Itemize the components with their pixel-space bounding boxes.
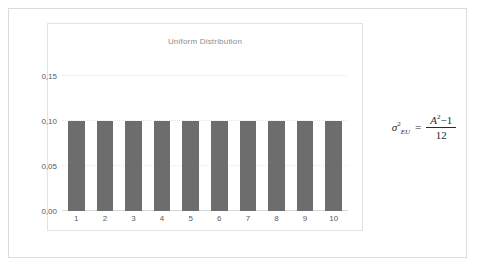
bar-slot: 1 bbox=[62, 53, 91, 211]
x-axis-tick-label: 2 bbox=[91, 214, 120, 223]
bar-slot: 8 bbox=[262, 53, 291, 211]
bar bbox=[325, 121, 342, 211]
y-axis-tick-label: 0,10 bbox=[41, 116, 57, 125]
bar-slot: 4 bbox=[148, 53, 177, 211]
bar-slot: 2 bbox=[91, 53, 120, 211]
bar-chart: Uniform Distribution 0,000,050,100,15 12… bbox=[47, 23, 363, 231]
bar-slot: 3 bbox=[119, 53, 148, 211]
bar-series: 12345678910 bbox=[62, 53, 348, 211]
bar bbox=[240, 121, 257, 211]
bar bbox=[154, 121, 171, 211]
bar-slot: 10 bbox=[319, 53, 348, 211]
bar bbox=[68, 121, 85, 211]
formula-fraction: A2−1 12 bbox=[426, 113, 456, 142]
x-axis-tick-label: 7 bbox=[234, 214, 263, 223]
formula-left-hand-side: σ2EU bbox=[392, 120, 410, 136]
equals-sign: = bbox=[415, 121, 421, 133]
x-axis-tick-label: 1 bbox=[62, 214, 91, 223]
chart-title: Uniform Distribution bbox=[47, 37, 363, 46]
bar-slot: 7 bbox=[234, 53, 263, 211]
bar bbox=[297, 121, 314, 211]
x-axis-tick-label: 5 bbox=[176, 214, 205, 223]
x-axis-tick-label: 6 bbox=[205, 214, 234, 223]
y-axis-tick-label: 0,15 bbox=[41, 71, 57, 80]
x-axis-tick-label: 8 bbox=[262, 214, 291, 223]
x-axis-tick-label: 9 bbox=[291, 214, 320, 223]
bar bbox=[211, 121, 228, 211]
bar-slot: 6 bbox=[205, 53, 234, 211]
x-axis-tick-label: 10 bbox=[319, 214, 348, 223]
bar bbox=[97, 121, 114, 211]
y-axis-tick-label: 0,00 bbox=[41, 207, 57, 216]
formula-denominator: 12 bbox=[436, 128, 447, 142]
sigma-subscript: EU bbox=[401, 127, 410, 135]
bar-slot: 9 bbox=[291, 53, 320, 211]
y-axis-tick-label: 0,05 bbox=[41, 161, 57, 170]
bar bbox=[125, 121, 142, 211]
formula-numerator: A2−1 bbox=[426, 113, 456, 127]
bar bbox=[182, 121, 199, 211]
numerator-variable: A bbox=[430, 114, 437, 126]
x-axis-tick-label: 3 bbox=[119, 214, 148, 223]
plot-area: 0,000,050,100,15 12345678910 bbox=[62, 53, 348, 211]
x-axis-tick-label: 4 bbox=[148, 214, 177, 223]
variance-formula: σ2EU = A2−1 12 bbox=[381, 113, 467, 142]
numerator-constant: 1 bbox=[447, 114, 453, 126]
bar-slot: 5 bbox=[176, 53, 205, 211]
figure-frame: Uniform Distribution 0,000,050,100,15 12… bbox=[8, 8, 467, 258]
bar bbox=[268, 121, 285, 211]
